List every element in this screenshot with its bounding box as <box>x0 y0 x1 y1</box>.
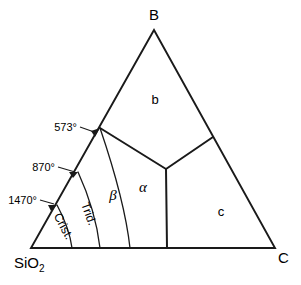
leader-870 <box>58 167 75 172</box>
region-label-cristobalite: Crist. <box>51 210 77 241</box>
vertex-label-sio2-text: SiO <box>14 254 39 271</box>
region-label-beta: β <box>108 187 117 203</box>
triangle-outline <box>31 30 275 248</box>
leader-1470 <box>40 200 54 204</box>
arrowhead-573-icon <box>91 128 100 137</box>
boundary-b-c <box>166 137 213 169</box>
vertex-label-c: C <box>278 249 289 266</box>
region-label-tridymite: Trid. <box>78 200 99 227</box>
vertex-label-sio2: SiO2 <box>14 254 45 274</box>
phase-diagram-canvas: B C SiO2 b α c β Trid. Crist. 573° 870° … <box>0 0 301 285</box>
ternary-phase-diagram: B C SiO2 b α c β Trid. Crist. 573° 870° … <box>0 0 301 285</box>
temperature-label-870: 870° <box>32 161 55 173</box>
region-label-alpha: α <box>139 179 148 195</box>
temperature-label-1470: 1470° <box>8 194 37 206</box>
region-label-b: b <box>151 92 158 107</box>
temperature-label-573: 573° <box>54 121 77 133</box>
boundary-b-alpha <box>100 128 166 169</box>
boundary-alpha-c <box>166 169 167 248</box>
region-label-c: c <box>218 204 225 219</box>
vertex-label-b: B <box>149 6 159 23</box>
vertex-label-sio2-subscript: 2 <box>39 263 45 274</box>
